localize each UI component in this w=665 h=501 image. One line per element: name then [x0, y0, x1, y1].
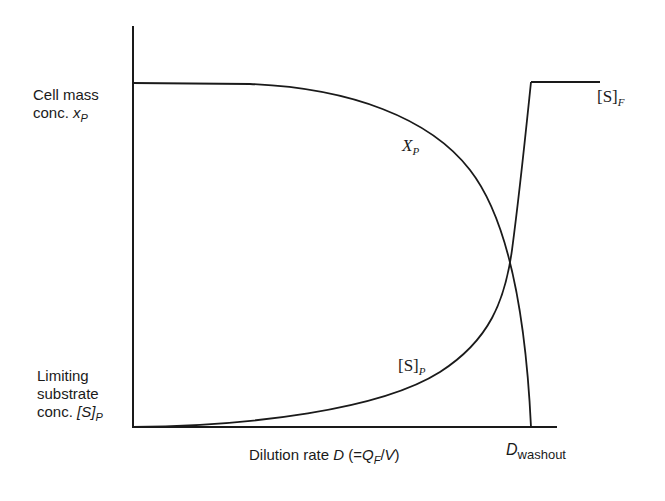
y-label-substrate: Limiting substrate conc. [S]P: [37, 367, 103, 421]
y-label-cell-mass: Cell mass conc. xP: [33, 86, 99, 122]
sp-curve: [133, 82, 531, 427]
xp-curve: [133, 83, 531, 427]
x-axis-label: Dilution rate D (=QF/V): [249, 446, 400, 464]
sf-curve-label: [S]F: [597, 88, 625, 106]
xp-curve-label: XP: [402, 137, 419, 155]
sp-curve-label: [S]P: [398, 357, 426, 375]
washout-label: Dwashout: [506, 441, 566, 459]
diagram-canvas: [0, 0, 665, 501]
